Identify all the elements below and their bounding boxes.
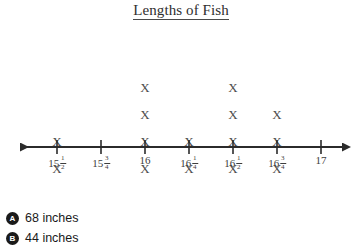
- x-mark: X: [228, 101, 237, 128]
- fraction-numerator: 1: [193, 155, 197, 162]
- fraction-denominator: 4: [193, 164, 197, 171]
- axis-tick-label: 17: [316, 155, 327, 166]
- x-mark: X: [140, 74, 149, 101]
- tick-whole-number: 16: [180, 158, 191, 169]
- fraction-numerator: 3: [281, 155, 285, 162]
- answer-choice-label: 68 inches: [25, 212, 79, 225]
- axis-tick-label: 1634: [268, 155, 286, 171]
- axis-tick-label: 1512: [48, 155, 66, 171]
- tick-whole-number: 15: [92, 158, 103, 169]
- fraction-denominator: 2: [237, 164, 241, 171]
- axis-tick-label: 16: [140, 155, 151, 166]
- fraction-denominator: 4: [105, 164, 109, 171]
- axis-tick-label: 1612: [224, 155, 242, 171]
- x-mark: X: [228, 74, 237, 101]
- tick-fraction: 14: [192, 155, 198, 171]
- tick-fraction: 12: [60, 155, 66, 171]
- tick-whole-number: 15: [48, 158, 59, 169]
- tick-whole-number: 17: [316, 155, 327, 166]
- fraction-numerator: 1: [237, 155, 241, 162]
- answer-choice-b[interactable]: B44 inches: [6, 228, 362, 248]
- fraction-numerator: 3: [105, 155, 109, 162]
- axis-tick-label: 1614: [180, 155, 198, 171]
- tick-whole-number: 16: [268, 158, 279, 169]
- fraction-denominator: 2: [61, 164, 65, 171]
- tick-fraction: 12: [236, 155, 242, 171]
- tick-whole-number: 16: [140, 155, 151, 166]
- axis-tick-label: 1534: [92, 155, 110, 171]
- answer-choice-a[interactable]: A68 inches: [6, 208, 362, 228]
- tick-whole-number: 16: [224, 158, 235, 169]
- answer-choices: A68 inchesB44 inches: [6, 208, 362, 248]
- choice-bullet-icon: A: [6, 212, 19, 225]
- fraction-numerator: 1: [61, 155, 65, 162]
- x-mark: X: [272, 101, 281, 128]
- x-mark: X: [140, 101, 149, 128]
- choice-bullet-icon: B: [6, 232, 19, 245]
- tick-fraction: 34: [104, 155, 110, 171]
- tick-fraction: 34: [280, 155, 286, 171]
- answer-choice-label: 44 inches: [25, 232, 79, 245]
- fraction-denominator: 4: [281, 164, 285, 171]
